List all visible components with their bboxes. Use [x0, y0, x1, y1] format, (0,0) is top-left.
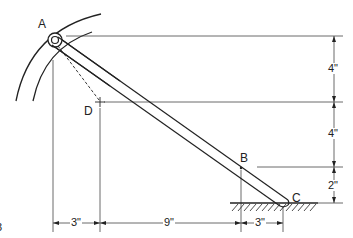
arrow-icon [332, 167, 336, 173]
dim-horizontal-right: 3" [254, 217, 266, 228]
arrow-icon [277, 221, 283, 225]
dim-horizontal-left: 3" [70, 217, 82, 228]
arrow-icon [53, 221, 59, 225]
dim-vertical-bottom: 2" [327, 180, 339, 191]
label-point-d: D [84, 105, 93, 117]
outer-guide-arc [16, 14, 101, 101]
arrow-icon [332, 197, 336, 203]
arrow-icon [94, 221, 100, 225]
arrow-icon [235, 221, 241, 225]
ground-hatch [230, 203, 318, 211]
arrow-icon [332, 161, 336, 167]
label-point-a: A [38, 18, 46, 30]
point-b-dot [240, 167, 242, 169]
pin-a-inner [52, 37, 59, 44]
label-point-c: C [292, 192, 301, 204]
arrow-icon [100, 221, 106, 225]
dim-horizontal-middle: 9" [163, 217, 175, 228]
label-point-b: B [240, 152, 248, 164]
rod [52, 37, 289, 207]
dim-vertical-middle: 4" [327, 128, 339, 139]
arrow-icon [241, 221, 247, 225]
edge-text-fragment: 3 [0, 222, 2, 233]
arrow-icon [332, 102, 336, 108]
arrow-icon [332, 96, 336, 102]
arrow-icon [332, 36, 336, 42]
dim-vertical-top: 4" [327, 63, 339, 74]
